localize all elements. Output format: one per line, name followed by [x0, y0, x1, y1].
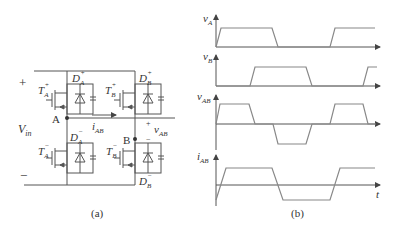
switch-tb-plus-label: TB+	[105, 81, 116, 99]
trace-vb-label: vB	[203, 50, 213, 65]
switch-tb-minus-label: TB−	[106, 142, 117, 160]
figure-canvas: + − Vin A B TA+ TB+ TA− TB− DA+ DB+ DA− …	[0, 0, 398, 230]
switch-ta-plus	[46, 90, 67, 110]
voltage-minus-label: −	[146, 135, 151, 144]
caption-b: (b)	[291, 207, 304, 220]
supply-minus-label: −	[20, 168, 27, 183]
node-b-dot	[133, 137, 137, 141]
waveform-axes	[216, 15, 380, 206]
node-a-label: A	[52, 113, 60, 125]
voltage-label: vAB	[154, 123, 168, 138]
supply-voltage-label: Vin	[18, 122, 32, 138]
diode-db-minus	[135, 143, 164, 173]
current-label: iAB	[92, 120, 104, 135]
trace-iab	[216, 168, 375, 200]
diode-da-minus	[67, 143, 96, 173]
switch-ta-plus-label: TA+	[38, 81, 49, 99]
node-a-dot	[65, 116, 69, 120]
trace-iab-label: iAB	[197, 150, 209, 165]
trace-va	[216, 28, 375, 47]
trace-va-label: vA	[203, 12, 213, 27]
trace-vb	[216, 67, 377, 86]
switch-tb-plus	[114, 90, 135, 110]
diode-db-plus	[135, 84, 164, 114]
time-axis-label: t	[376, 188, 380, 200]
voltage-plus-label: +	[146, 119, 151, 128]
diode-db-minus-label: DB−	[138, 172, 152, 190]
waveform-traces	[216, 28, 377, 200]
diode-da-plus	[67, 84, 96, 114]
switch-tb-minus	[114, 148, 135, 168]
trace-vab-label: vAB	[197, 90, 211, 105]
switch-ta-minus-label: TA−	[38, 142, 49, 160]
supply-plus-label: +	[19, 75, 26, 90]
switch-ta-minus	[46, 148, 67, 168]
node-b-label: B	[123, 134, 130, 146]
caption-a: (a)	[91, 207, 104, 220]
